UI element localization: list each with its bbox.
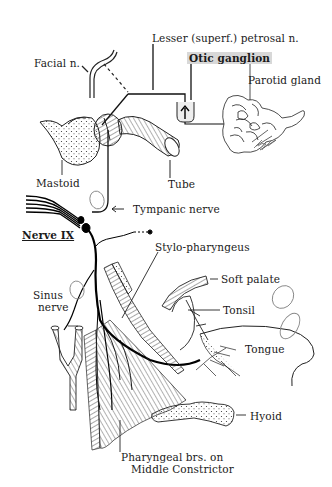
mastoid (40, 117, 100, 175)
nerve-ix-diagram: Lesser (superf.) petrosal n. Facial n. O… (0, 0, 332, 487)
eustachian-tube (118, 116, 182, 178)
label-parotid-gland: Parotid gland (248, 74, 321, 86)
tonsil (172, 296, 220, 350)
soft-palate (162, 276, 218, 310)
otic-ganglion (177, 102, 230, 124)
label-tube: Tube (168, 178, 195, 190)
label-tympanic-nerve: Tympanic nerve (133, 203, 220, 215)
label-soft-palate: Soft palate (221, 273, 280, 285)
label-stylo-pharyngeus: Stylo-pharyngeus (155, 241, 250, 253)
label-mastoid: Mastoid (36, 177, 80, 189)
carotid-vessels (51, 326, 83, 410)
label-pharyngeal-1: Pharyngeal brs. on (121, 451, 223, 463)
label-sinus-nerve-1: Sinus (33, 289, 63, 301)
nerve-ix-roots (26, 196, 90, 233)
label-nerve-ix: Nerve IX (22, 229, 74, 241)
label-tonsil: Tonsil (223, 304, 255, 316)
facial-nerve (82, 50, 128, 98)
label-facial-nerve: Facial n. (34, 57, 80, 69)
label-pharyngeal-2: Middle Constrictor (131, 463, 234, 475)
label-tongue: Tongue (245, 343, 285, 355)
label-sinus-nerve-2: nerve (38, 301, 69, 313)
middle-constrictor-muscle (84, 320, 186, 452)
label-hyoid: Hyoid (250, 410, 282, 422)
tongue (196, 326, 314, 386)
label-lesser-petrosal: Lesser (superf.) petrosal n. (152, 32, 299, 44)
label-otic-ganglion: Otic ganglion (187, 52, 272, 64)
